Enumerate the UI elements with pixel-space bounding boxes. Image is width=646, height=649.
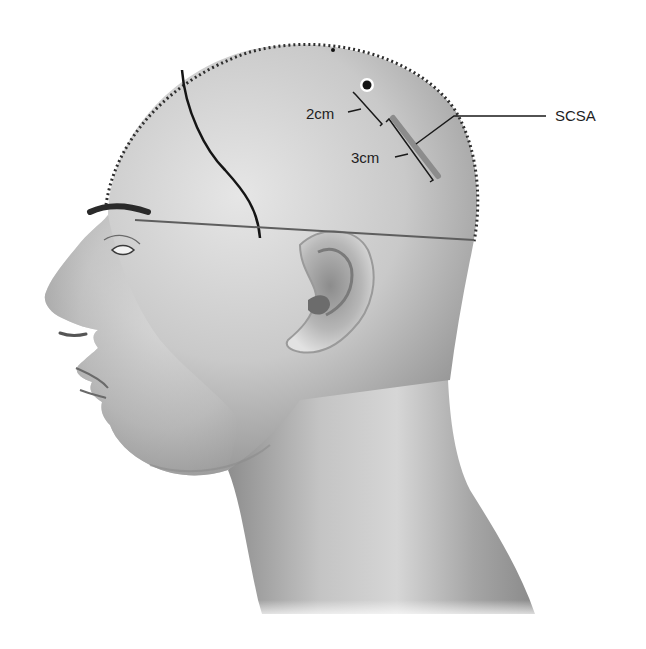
eye bbox=[112, 246, 134, 255]
head-profile-illustration bbox=[0, 0, 646, 649]
label-3cm: 3cm bbox=[351, 150, 379, 165]
neck-fade bbox=[220, 540, 550, 620]
vertex-dot bbox=[331, 48, 335, 52]
label-scsa: SCSA bbox=[555, 108, 596, 123]
label-2cm: 2cm bbox=[306, 106, 334, 121]
illustration-stage: 2cm 3cm SCSA bbox=[0, 0, 646, 649]
point-marker bbox=[360, 78, 374, 92]
nostril bbox=[60, 333, 86, 335]
